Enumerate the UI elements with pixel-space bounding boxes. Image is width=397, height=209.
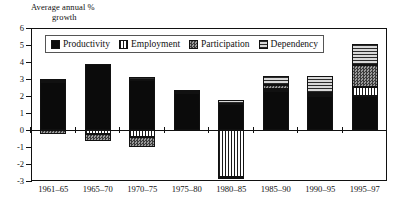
bar-segment-employment	[263, 89, 289, 91]
y-axis-title: Average annual % growth	[31, 2, 95, 22]
x-axis-tick-label: 1985–90	[261, 184, 291, 194]
bar-segment-dependency	[263, 76, 289, 85]
legend-item-employment[interactable]: Employment	[119, 39, 180, 49]
y-axis-tick-label: -3	[2, 177, 24, 186]
y-axis-tick-label: 3	[2, 75, 24, 84]
x-axis-tick	[253, 127, 254, 133]
bar-segment-employment	[352, 87, 378, 96]
x-axis-ticks	[31, 127, 387, 133]
x-axis-tick	[30, 127, 31, 133]
bar-segment-productivity	[352, 96, 378, 130]
legend-item-productivity[interactable]: Productivity	[51, 39, 110, 49]
bar-segment-participation	[263, 85, 289, 89]
x-axis-tick-label: 1970–75	[127, 184, 157, 194]
x-axis-tick-labels: 1961–651965–701970–751975–801980–851985–…	[31, 184, 387, 198]
y-axis-tick-label: 0	[2, 126, 24, 135]
bar-segment-dependency	[307, 76, 333, 93]
bar-segment-participation	[85, 134, 111, 141]
bar-segment-productivity	[174, 93, 200, 130]
x-axis-tick-label: 1995–97	[350, 184, 380, 194]
x-axis-tick	[208, 127, 209, 133]
bar-segment-productivity	[85, 64, 111, 130]
bar-segment-dependency	[352, 44, 378, 64]
stacked-bar-chart: Average annual % growth 6543210-1-2-3 19…	[0, 0, 397, 209]
x-axis-tick	[297, 127, 298, 133]
y-axis-tick-label: 1	[2, 109, 24, 118]
chart-legend: ProductivityEmploymentParticipationDepen…	[45, 35, 324, 53]
bar-segment-employment	[174, 92, 200, 94]
dependency-swatch	[259, 40, 268, 49]
x-axis-tick	[164, 127, 165, 133]
participation-swatch	[189, 40, 198, 49]
y-axis-tick-label: -1	[2, 143, 24, 152]
bar-segment-dependency	[174, 90, 200, 92]
legend-item-dependency[interactable]: Dependency	[259, 39, 318, 49]
bar-segment-dependency	[40, 79, 66, 81]
y-axis-tick-labels: 6543210-1-2-3	[0, 28, 24, 181]
x-axis-tick	[119, 127, 120, 133]
legend-label: Dependency	[271, 39, 318, 49]
bar-group[interactable]	[352, 28, 378, 181]
x-axis-tick-label: 1980–85	[216, 184, 246, 194]
x-axis-tick	[75, 127, 76, 133]
y-axis-title-line2: growth	[31, 12, 95, 22]
y-axis-title-line1: Average annual %	[31, 2, 95, 12]
bar-segment-participation	[307, 93, 333, 96]
legend-label: Participation	[201, 39, 250, 49]
bar-segment-employment	[218, 130, 244, 177]
y-axis-tick	[26, 181, 32, 182]
x-axis-tick-label: 1965–70	[83, 184, 113, 194]
bar-segment-productivity	[129, 80, 155, 130]
bar-segment-participation	[352, 65, 378, 87]
x-axis-tick-label: 1975–80	[172, 184, 202, 194]
bar-segment-dependency	[129, 77, 155, 80]
legend-label: Productivity	[63, 39, 110, 49]
bar-segment-productivity	[40, 82, 66, 130]
bar-segment-participation	[129, 137, 155, 147]
bar-segment-productivity	[307, 96, 333, 130]
x-axis-tick	[342, 127, 343, 133]
y-axis-tick-label: 5	[2, 41, 24, 50]
y-axis-tick-label: 6	[2, 24, 24, 33]
x-axis-tick-label: 1961–65	[38, 184, 68, 194]
productivity-swatch	[51, 40, 60, 49]
legend-label: Employment	[131, 39, 180, 49]
bar-segment-dependency	[218, 100, 244, 103]
bar-segment-participation	[218, 177, 244, 180]
y-axis-tick-label: 4	[2, 58, 24, 67]
bar-segment-employment	[307, 95, 333, 97]
x-axis-tick-label: 1990–95	[305, 184, 335, 194]
bar-segment-productivity	[263, 91, 289, 130]
y-axis-tick-label: -2	[2, 160, 24, 169]
employment-swatch	[119, 40, 128, 49]
y-axis-tick-label: 2	[2, 92, 24, 101]
legend-item-participation[interactable]: Participation	[189, 39, 250, 49]
